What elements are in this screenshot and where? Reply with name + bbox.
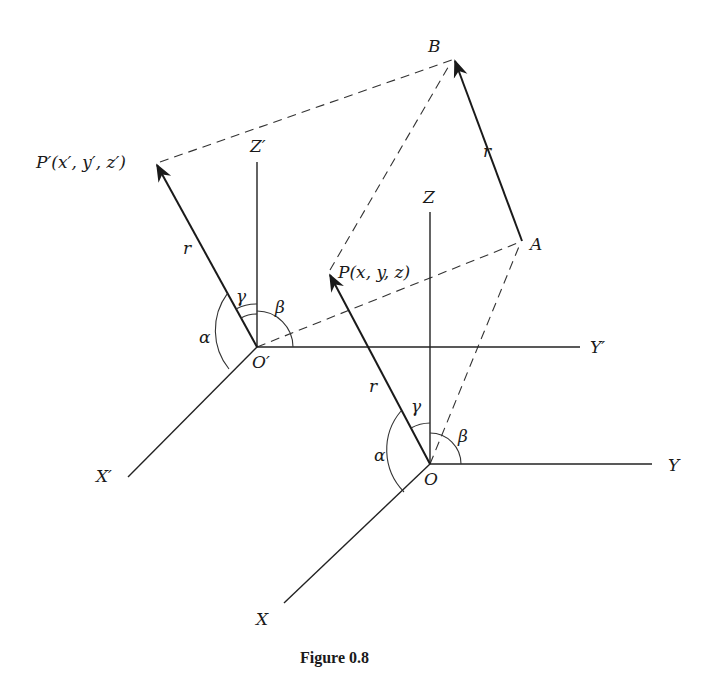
angle-gamma-arc bbox=[411, 423, 430, 428]
axis-label-y: Y bbox=[668, 455, 681, 475]
x-prime-axis bbox=[128, 347, 257, 477]
axis-label-z-prime: Z′ bbox=[249, 136, 266, 156]
point-label-b: B bbox=[427, 36, 441, 56]
axis-label-z: Z bbox=[422, 187, 436, 207]
axis-label-y-prime: Y′ bbox=[590, 337, 605, 357]
origin-label-o-prime: O′ bbox=[252, 352, 270, 372]
point-label-a: A bbox=[528, 234, 542, 254]
dashed-line-o-a bbox=[430, 244, 520, 464]
axis-label-x: X bbox=[254, 609, 269, 629]
axis-label-x-prime: X′ bbox=[94, 466, 112, 486]
angle-gamma-arc2-primed bbox=[241, 314, 257, 318]
dashed-line-pprime-b bbox=[160, 60, 452, 162]
angle-label-alpha-primed: α bbox=[199, 327, 211, 347]
angle-label-beta: β bbox=[457, 426, 468, 446]
vector-label-r-primed: r bbox=[183, 238, 192, 258]
vector-label-r-ab: r bbox=[483, 141, 492, 161]
angle-beta-arc bbox=[430, 433, 461, 464]
origin-label-o: O bbox=[424, 469, 438, 489]
dashed-line-oprime-a bbox=[257, 242, 520, 347]
coordinate-frames-diagram: P′(x′, y′, z′) B A P(x, y, z) Z′ Y′ X′ O… bbox=[0, 0, 722, 686]
x-axis bbox=[284, 464, 430, 603]
figure-caption: Figure 0.8 bbox=[300, 649, 369, 667]
angle-alpha-arc-primed bbox=[215, 293, 229, 369]
vector-r-unprimed bbox=[330, 275, 430, 464]
point-label-p: P(x, y, z) bbox=[337, 262, 410, 282]
vector-label-r-unprimed: r bbox=[369, 376, 378, 396]
angle-label-alpha: α bbox=[374, 445, 386, 465]
angle-label-beta-primed: β bbox=[274, 297, 285, 317]
angle-label-gamma: γ bbox=[411, 396, 422, 416]
point-label-p-prime: P′(x′, y′, z′) bbox=[35, 152, 126, 172]
angle-alpha-arc bbox=[387, 411, 404, 492]
angle-label-gamma-primed: γ bbox=[236, 286, 247, 306]
dashed-line-p-b bbox=[330, 64, 450, 270]
vector-r-primed bbox=[157, 165, 257, 347]
